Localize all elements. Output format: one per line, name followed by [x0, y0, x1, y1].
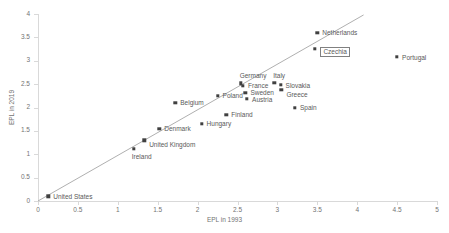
data-point-marker[interactable] — [316, 31, 319, 34]
data-point-marker[interactable] — [174, 101, 177, 104]
data-point-label[interactable]: Spain — [300, 105, 317, 112]
data-point-label[interactable]: Czechia — [320, 47, 350, 58]
x-tick-label: 2 — [186, 207, 210, 214]
scatter-chart: EPL in 2019 EPL in 1993 00.511.522.533.5… — [0, 0, 449, 233]
y-tick-mark — [34, 108, 38, 109]
data-point-label[interactable]: Netherlands — [322, 30, 357, 37]
data-point-marker[interactable] — [313, 47, 316, 50]
data-point-marker[interactable] — [273, 81, 276, 84]
data-point-label[interactable]: Austria — [252, 97, 272, 104]
x-tick-label: 0 — [26, 207, 50, 214]
x-tick-label: 5 — [425, 207, 449, 214]
x-tick-mark — [238, 201, 239, 205]
y-axis-line — [38, 14, 39, 202]
data-point-label[interactable]: Belgium — [180, 100, 203, 107]
data-point-label[interactable]: Ireland — [132, 154, 152, 161]
x-tick-mark — [357, 201, 358, 205]
data-point-marker[interactable] — [395, 55, 398, 58]
data-point-marker[interactable] — [158, 127, 161, 130]
data-point-label[interactable]: United States — [53, 194, 92, 201]
data-point-marker[interactable] — [279, 83, 282, 86]
y-tick-mark — [34, 84, 38, 85]
x-tick-mark — [397, 201, 398, 205]
y-tick-label: 3.5 — [8, 34, 30, 41]
data-point-marker[interactable] — [280, 88, 283, 91]
data-point-marker[interactable] — [293, 106, 296, 109]
data-point-marker[interactable] — [132, 147, 135, 150]
data-point-label[interactable]: Slovakia — [286, 83, 311, 90]
x-tick-label: 0.5 — [66, 207, 90, 214]
data-point-label[interactable]: Germany — [240, 73, 267, 80]
x-tick-mark — [198, 201, 199, 205]
y-tick-label: 2.5 — [8, 81, 30, 88]
y-tick-label: 0 — [8, 198, 30, 205]
data-point-marker[interactable] — [244, 91, 247, 94]
x-tick-label: 4.5 — [385, 207, 409, 214]
x-tick-mark — [118, 201, 119, 205]
x-tick-label: 1.5 — [146, 207, 170, 214]
data-point-marker[interactable] — [142, 139, 145, 142]
data-point-label[interactable]: United Kingdom — [149, 142, 195, 149]
data-point-label[interactable]: Poland — [223, 93, 243, 100]
y-tick-mark — [34, 61, 38, 62]
x-tick-label: 4 — [345, 207, 369, 214]
y-tick-label: 0.5 — [8, 174, 30, 181]
y-tick-label: 3 — [8, 57, 30, 64]
y-tick-label: 2 — [8, 104, 30, 111]
data-point-label[interactable]: Italy — [273, 73, 285, 80]
x-tick-mark — [38, 201, 39, 205]
x-axis-title: EPL in 1993 — [0, 216, 449, 223]
data-point-marker[interactable] — [47, 195, 50, 198]
x-tick-mark — [437, 201, 438, 205]
data-point-marker[interactable] — [245, 97, 248, 100]
data-point-label[interactable]: Hungary — [207, 121, 232, 128]
x-tick-label: 3.5 — [305, 207, 329, 214]
x-tick-label: 1 — [106, 207, 130, 214]
data-point-label[interactable]: Greece — [286, 92, 307, 99]
y-tick-label: 1 — [8, 151, 30, 158]
x-tick-label: 3 — [265, 207, 289, 214]
y-tick-label: 1.5 — [8, 127, 30, 134]
data-point-label[interactable]: Denmark — [164, 126, 190, 133]
x-tick-mark — [277, 201, 278, 205]
data-point-marker[interactable] — [225, 113, 228, 116]
y-tick-mark — [34, 154, 38, 155]
x-tick-mark — [158, 201, 159, 205]
data-point-label[interactable]: Finland — [231, 112, 252, 119]
y-tick-mark — [34, 14, 38, 15]
data-point-label[interactable]: Portugal — [402, 55, 426, 62]
y-tick-mark — [34, 37, 38, 38]
y-tick-label: 4 — [8, 11, 30, 18]
x-tick-mark — [317, 201, 318, 205]
y-tick-mark — [34, 178, 38, 179]
data-point-marker[interactable] — [200, 122, 203, 125]
data-point-marker[interactable] — [216, 94, 219, 97]
data-point-marker[interactable] — [241, 84, 244, 87]
x-tick-label: 2.5 — [226, 207, 250, 214]
x-tick-mark — [78, 201, 79, 205]
y-tick-mark — [34, 131, 38, 132]
